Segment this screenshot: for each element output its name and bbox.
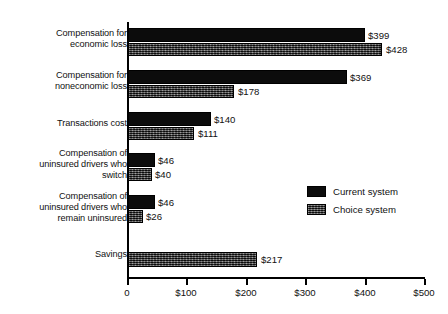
category-label-line: Compensation for <box>9 70 127 81</box>
bar-current-uninsured-remain <box>128 195 155 209</box>
bar-current-transactions-cost <box>128 112 211 126</box>
legend-label-choice-system: Choice system <box>333 204 396 215</box>
bar-current-economic-loss <box>128 28 365 42</box>
x-axis-tick <box>186 279 188 285</box>
category-label-line: switch <box>9 170 127 181</box>
category-label-uninsured-remain: Compensation of uninsured drivers who re… <box>9 191 127 224</box>
bar-value-choice-noneconomic-loss: $178 <box>238 86 259 97</box>
legend-label-current-system: Current system <box>333 186 398 197</box>
category-label-noneconomic-loss: Compensation for noneconomic loss <box>9 70 127 92</box>
category-label-line: noneconomic loss <box>9 81 127 92</box>
x-axis-tick <box>365 279 367 285</box>
bar-choice-noneconomic-loss <box>128 85 234 98</box>
category-label-transactions-cost: Transactions cost <box>9 118 127 129</box>
bar-chart-figure: Compensation for economic loss Compensat… <box>0 0 448 314</box>
legend-swatch-icon-choice-system <box>307 204 326 215</box>
legend-item-choice-system: Choice system <box>307 202 398 217</box>
legend-swatch-icon-current-system <box>307 186 326 197</box>
category-label-uninsured-switch: Compensation of uninsured drivers who sw… <box>9 148 127 181</box>
category-label-savings: Savings <box>9 249 127 260</box>
x-axis-tick <box>127 279 129 285</box>
category-label-line: Compensation of <box>9 148 127 159</box>
x-axis-tick-label: $100 <box>175 287 196 298</box>
category-label-line: uninsured drivers who <box>9 159 127 170</box>
bar-choice-savings <box>128 252 257 267</box>
bar-value-current-economic-loss: $399 <box>368 30 389 41</box>
bar-value-current-uninsured-remain: $46 <box>158 197 174 208</box>
bar-value-current-noneconomic-loss: $369 <box>350 72 371 83</box>
x-axis-tick-label: $400 <box>354 287 375 298</box>
category-label-line: economic loss <box>9 39 127 50</box>
y-axis-line <box>127 22 129 278</box>
legend-item-current-system: Current system <box>307 184 398 199</box>
bar-value-choice-uninsured-remain: $26 <box>146 211 162 222</box>
category-label-line: uninsured drivers who <box>9 202 127 213</box>
bar-choice-uninsured-switch <box>128 168 152 181</box>
chart-legend: Current system Choice system <box>307 184 398 220</box>
x-axis-tick <box>305 279 307 285</box>
category-label-line: Compensation for <box>9 28 127 39</box>
category-label-line: Transactions cost <box>9 118 127 129</box>
bar-current-noneconomic-loss <box>128 70 347 84</box>
x-axis-tick <box>424 279 426 285</box>
bar-value-choice-economic-loss: $428 <box>386 44 407 55</box>
category-label-line: remain uninsured <box>9 213 127 224</box>
bar-value-choice-transactions-cost: $111 <box>198 128 218 139</box>
category-label-economic-loss: Compensation for economic loss <box>9 28 127 50</box>
bar-choice-transactions-cost <box>128 127 194 140</box>
x-axis-tick <box>246 279 248 285</box>
bar-choice-uninsured-remain <box>128 210 143 223</box>
bar-choice-economic-loss <box>128 43 382 56</box>
bar-value-current-uninsured-switch: $46 <box>158 155 174 166</box>
category-label-line: Savings <box>9 249 127 260</box>
category-label-line: Compensation of <box>9 191 127 202</box>
bar-current-uninsured-switch <box>128 153 155 167</box>
x-axis-tick-label: 0 <box>124 287 129 298</box>
x-axis-line <box>127 277 425 279</box>
x-axis-tick-label: $200 <box>235 287 256 298</box>
x-axis-tick-label: $300 <box>294 287 315 298</box>
bar-value-choice-uninsured-switch: $40 <box>155 169 171 180</box>
bar-value-current-transactions-cost: $140 <box>214 114 235 125</box>
x-axis-tick-label: $500 <box>413 287 434 298</box>
bar-value-choice-savings: $217 <box>261 254 282 265</box>
plot-area: 0 $100 $200 $300 $400 $500 $399 $428 $36… <box>127 22 424 278</box>
